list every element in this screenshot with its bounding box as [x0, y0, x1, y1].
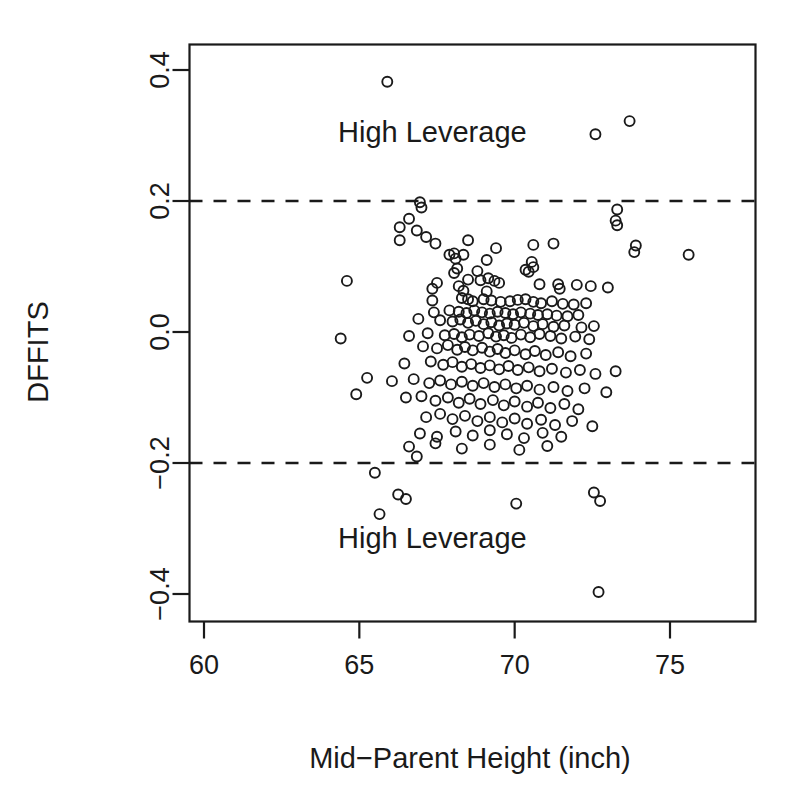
- y-tick-label: 0.2: [145, 182, 175, 220]
- plot-canvas: High LeverageHigh Leverage −0.4−0.20.00.…: [0, 0, 799, 806]
- y-tick-label: 0.4: [145, 51, 175, 89]
- y-tick-label: 0.0: [145, 313, 175, 351]
- high-leverage-annotation: High Leverage: [338, 522, 527, 554]
- high-leverage-annotation: High Leverage: [338, 116, 527, 148]
- x-tick-label: 75: [655, 650, 685, 680]
- y-axis-title: DFFITS: [22, 301, 54, 403]
- x-tick-label: 65: [344, 650, 374, 680]
- x-axis-title: Mid−Parent Height (inch): [309, 742, 631, 774]
- dffits-scatter-figure: High LeverageHigh Leverage −0.4−0.20.00.…: [0, 0, 799, 806]
- x-tick-label: 60: [189, 650, 219, 680]
- y-tick-label: −0.2: [145, 436, 175, 489]
- x-tick-label: 70: [500, 650, 530, 680]
- y-tick-label: −0.4: [145, 567, 175, 620]
